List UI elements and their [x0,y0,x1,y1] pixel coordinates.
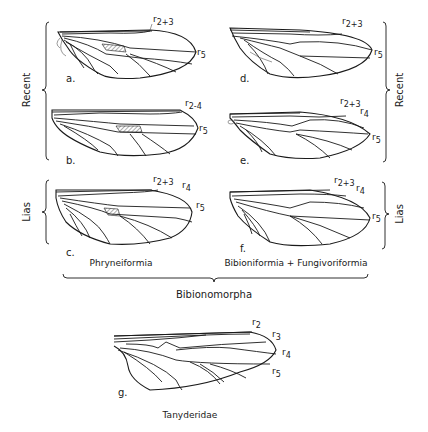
wing-d-label: d. [240,73,250,84]
wing-c-r5-label: r5 [196,200,205,213]
left-recent-brace [42,22,49,160]
wing-f-r5-label: r5 [372,211,381,224]
wing-a-r23-pointer [150,24,152,30]
wing-g [114,332,276,390]
wing-b-label: b. [66,155,76,166]
tanyderidae-label: Tanyderidae [162,410,218,420]
wing-b-r24-label: r2-4 [185,98,202,111]
wing-a-label: a. [66,73,75,84]
wing-e-label: e. [240,155,249,166]
wing-a-r23-label: r2+3 [153,14,174,27]
wing-d-r23-label: r2+3 [342,16,363,29]
wing-d-r5-label: r5 [374,47,383,60]
wing-g-label: g. [118,387,128,398]
wing-e-r5-label: r5 [372,132,381,145]
left-lias-label: Lias [21,202,32,222]
wing-a [57,30,196,79]
right-lias-label: Lias [394,204,405,224]
right-lias-brace [382,182,389,249]
wing-f-label: f. [240,243,246,254]
right-recent-brace [383,22,390,162]
wing-g-r3-label: r3 [272,329,281,342]
wing-venation-figure: Recent Lias Recent Lias a. r2+3 r5 [0,0,428,432]
wing-d [230,28,372,78]
wing-g-r2-label: r2 [252,317,261,330]
left-lias-brace [42,180,49,244]
wing-g-r5-label: r5 [272,366,281,379]
wing-f-r4-label: r4 [356,183,365,196]
wing-e [228,112,370,159]
wing-b-r5-label: r5 [199,123,208,136]
right-recent-label: Recent [394,73,405,108]
wing-c [56,190,192,244]
wing-c-r23-label: r2+3 [153,174,174,187]
left-recent-label: Recent [21,73,32,108]
wing-a-r5-label: r5 [197,47,206,60]
wing-c-r4-label: r4 [182,180,191,193]
wing-f [230,190,370,246]
wing-c-label: c. [66,247,75,258]
bibio-fungi-label: Bibioniformia + Fungivoriformia [224,258,367,268]
wing-b [52,110,198,156]
wing-f-r23-label: r2+3 [334,175,355,188]
wing-g-r4-label: r4 [282,347,291,360]
wing-e-r23-label: r2+3 [340,96,361,109]
phryneiformia-label: Phryneiformia [90,258,153,268]
bibionomorpha-brace [63,274,368,282]
bibionomorpha-label: Bibionomorpha [176,289,252,300]
wing-e-r4-label: r4 [360,106,369,119]
